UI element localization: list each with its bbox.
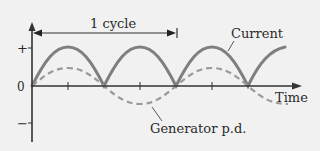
y-axis-arrow-icon xyxy=(29,22,36,31)
y-label-zero: 0 xyxy=(17,80,25,94)
generator-leader-line xyxy=(152,107,162,121)
current-curve xyxy=(32,47,285,86)
x-axis-label: Time xyxy=(275,90,308,105)
diagram-canvas: + 0 − Time 1 cycle Current Generator p.d… xyxy=(0,0,320,151)
current-leader-line xyxy=(228,41,234,51)
generator-pd-label: Generator p.d. xyxy=(150,121,246,136)
y-label-minus: − xyxy=(17,116,28,131)
cycle-label: 1 cycle xyxy=(90,16,136,31)
current-label: Current xyxy=(231,26,284,41)
ac-generator-diagram: + 0 − Time 1 cycle Current Generator p.d… xyxy=(0,0,320,151)
y-label-plus: + xyxy=(17,41,28,56)
x-axis-arrow-icon xyxy=(292,83,302,90)
cycle-arrow-right-icon xyxy=(167,30,176,37)
